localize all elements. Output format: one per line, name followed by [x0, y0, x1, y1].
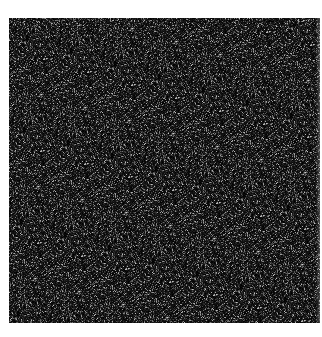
right-edge-fade — [316, 18, 320, 323]
noise-texture-image — [9, 18, 320, 323]
